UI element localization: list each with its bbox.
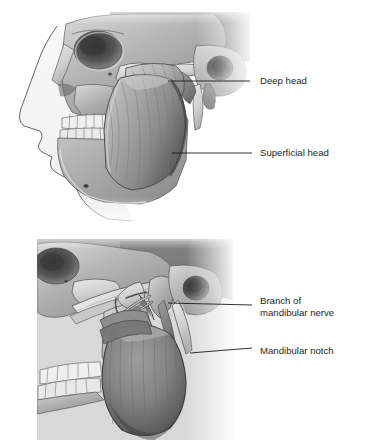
panel-right-fade bbox=[196, 8, 254, 224]
panel-top-fade bbox=[14, 8, 254, 24]
mental-foramen bbox=[83, 184, 88, 187]
lower-infraorbital-foramen bbox=[64, 280, 68, 283]
label-mandibular-notch: Mandibular notch bbox=[260, 345, 334, 356]
lower-panel-top-fade bbox=[37, 239, 233, 249]
lower-panel-right-fade bbox=[186, 239, 233, 440]
reflected-masseter-muscle bbox=[102, 324, 186, 436]
label-superficial-head: Superficial head bbox=[260, 147, 329, 158]
panel-bottom-fade bbox=[14, 196, 254, 224]
label-branch-of-mandibular-nerve-line2: mandibular nerve bbox=[260, 307, 334, 318]
infraorbital-foramen bbox=[108, 72, 112, 75]
label-deep-head: Deep head bbox=[260, 75, 307, 86]
orbit-inner-shadow bbox=[80, 36, 106, 56]
label-branch-of-mandibular-nerve-line1: Branch of bbox=[260, 295, 301, 306]
deep-dissection-panel bbox=[33, 239, 233, 440]
lower-orbit-shadow bbox=[40, 253, 64, 271]
anatomy-figure: Deep head Superficial head Branch of man… bbox=[0, 0, 372, 443]
